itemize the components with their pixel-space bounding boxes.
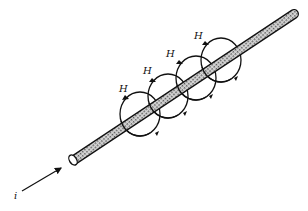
current-label: i — [14, 190, 17, 201]
field-label-4: H — [193, 30, 203, 41]
current-arrow — [22, 168, 61, 191]
arrow-icon — [155, 131, 159, 136]
arrow-icon — [183, 111, 187, 116]
field-label-3: H — [165, 48, 175, 59]
field-label-2: H — [142, 65, 152, 76]
wire — [67, 14, 294, 167]
wire-field-diagram: H H H H i — [0, 0, 308, 211]
field-label-1: H — [118, 83, 128, 94]
